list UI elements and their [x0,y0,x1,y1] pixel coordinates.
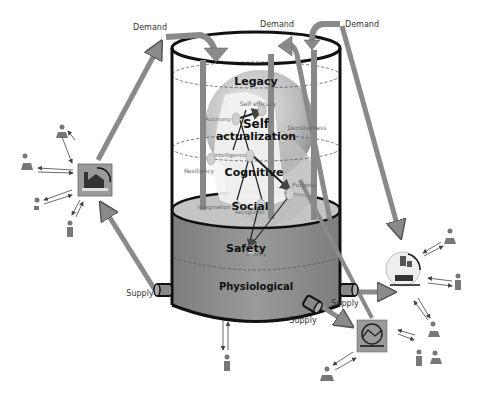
supply-label-bottom: Supply [289,316,317,325]
level-self-2: actualization [216,130,296,143]
level-cognitive: Cognitive [225,166,284,179]
attr-purpose: Purpose [292,181,316,189]
level-legacy: Legacy [234,75,277,88]
attr-resiliency: Resiliency [184,167,215,175]
attr-decisiveness: Decisiveness [287,124,326,131]
attr-autonomy: Autonomy [205,116,231,123]
supplier-node-right [386,252,420,286]
demand-label-center: Demand [260,20,294,29]
attr-security: Security [246,251,267,258]
attr-self-efficacy: Self efficacy [240,100,277,108]
level-self-1: Self [243,117,270,131]
demand-label-left: Demand [133,23,167,32]
supplier-node-left [78,164,112,196]
supply-label-right: Supply [331,299,359,308]
level-physiological: Physiological [219,281,293,292]
demand-label-right: Demand [345,20,379,29]
attr-recognition: Recognition [235,209,264,216]
supply-label-left: Supply [126,289,154,298]
supplier-node-bottom [357,320,387,352]
attr-intelligence: Intelligence [214,152,247,159]
hierarchy-tank-diagram: Legacy Self actualization Cognitive Soci… [0,0,484,401]
attr-imagination: Imagination [198,204,231,211]
